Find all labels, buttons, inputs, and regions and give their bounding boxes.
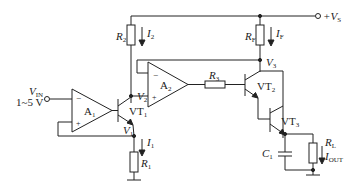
vin-range-label: 1~5 V [16,96,44,108]
svg-text:VT2: VT2 [257,80,276,94]
current-arrow-if [268,40,274,46]
svg-text:C1: C1 [262,147,273,161]
current-arrow-i2 [139,40,145,46]
resistor-r1 [130,152,138,172]
svg-text:−: − [153,70,158,80]
resistor-rf [256,25,264,45]
a1-label: A [84,105,92,117]
svg-text:+: + [152,93,157,102]
resistor-rl [309,143,317,163]
svg-text:VT3: VT3 [281,115,300,129]
a2-minus-label: − [153,70,158,80]
supply-label: +V [323,10,338,22]
svg-text:V3: V3 [266,56,277,70]
svg-text:V2: V2 [137,90,148,104]
supply-terminal [316,14,321,19]
svg-text:−: − [76,93,81,103]
svg-text:R3: R3 [208,69,220,83]
svg-text:RF: RF [244,30,256,44]
circuit-schematic: +VS R2 I2 RF IF V3 − + A2 R3 VT2 VT3 C1 … [0,0,358,193]
a1-plus-label: + [76,119,81,128]
svg-text:IOUT: IOUT [324,150,344,164]
svg-text:RL: RL [324,136,336,150]
input-terminal [45,97,50,102]
svg-text:+VS: +VS [323,10,341,24]
a2-label: A [160,79,168,91]
svg-text:IF: IF [275,27,284,41]
svg-text:R1: R1 [140,157,152,171]
svg-text:I1: I1 [146,136,155,150]
svg-text:V1: V1 [123,124,134,138]
vt2-label: VT [257,80,272,92]
svg-text:+: + [76,119,81,128]
svg-text:I2: I2 [146,27,155,41]
vt3-label: VT [281,115,296,127]
a1-minus-label: − [76,93,81,103]
vt1-label: VT [129,105,144,117]
svg-text:1~5 V: 1~5 V [16,96,44,108]
a2-plus-label: + [152,93,157,102]
resistor-r2 [127,25,135,45]
svg-text:R2: R2 [115,30,127,44]
current-arrow-i1 [139,150,145,156]
svg-text:VT1: VT1 [129,105,148,119]
